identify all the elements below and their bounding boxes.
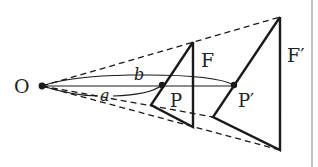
homothety-diagram: O F F′ P P′ b a xyxy=(0,0,318,167)
point-P-prime xyxy=(231,82,237,88)
label-O: O xyxy=(14,75,30,97)
label-P-prime: P′ xyxy=(238,90,254,111)
label-b: b xyxy=(134,65,144,84)
label-F: F xyxy=(201,49,214,71)
figure-F xyxy=(151,42,193,127)
label-P: P xyxy=(170,90,182,111)
label-F-prime: F′ xyxy=(287,44,305,66)
figure-F-prime xyxy=(213,17,280,150)
label-a: a xyxy=(100,86,110,105)
point-P xyxy=(159,82,165,88)
point-O xyxy=(39,83,46,90)
